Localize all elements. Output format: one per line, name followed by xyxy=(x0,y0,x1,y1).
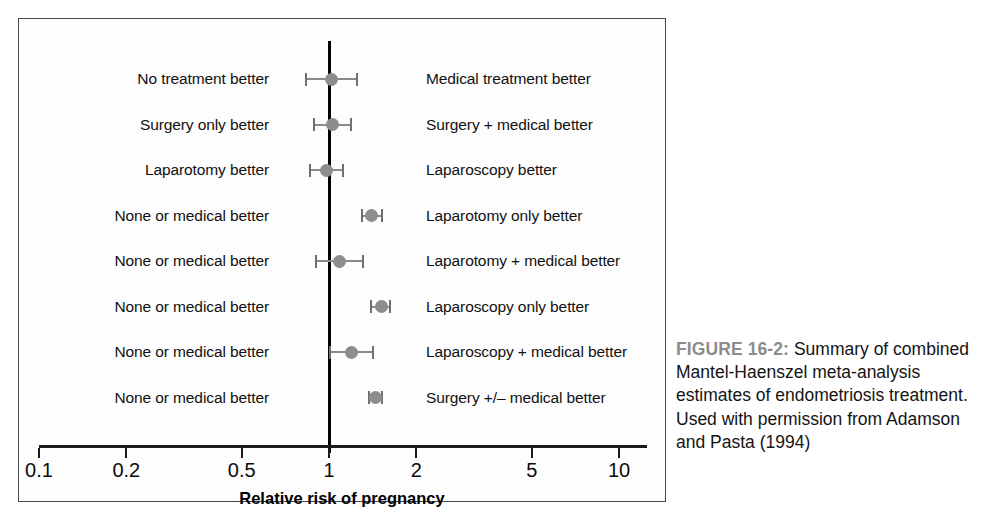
ci-cap-lower xyxy=(309,164,311,177)
point-estimate-marker xyxy=(326,118,339,131)
x-tick xyxy=(618,448,620,458)
forest-row: Laparotomy betterLaparoscopy better xyxy=(19,150,665,190)
row-label-right: Laparoscopy better xyxy=(426,161,557,179)
ci-cap-upper xyxy=(362,255,364,268)
forest-row: Surgery only betterSurgery + medical bet… xyxy=(19,105,665,145)
x-tick-label: 0.5 xyxy=(228,459,256,482)
ci-cap-upper xyxy=(372,346,374,359)
forest-plot-panel: No treatment betterMedical treatment bet… xyxy=(18,18,666,502)
ci-cap-upper xyxy=(342,164,344,177)
x-tick xyxy=(415,448,417,458)
figure-caption-label: FIGURE 16-2: xyxy=(676,339,789,359)
x-axis-line xyxy=(39,445,647,448)
row-label-left: Surgery only better xyxy=(140,116,269,134)
point-estimate-marker xyxy=(375,300,388,313)
ci-cap-upper xyxy=(389,300,391,313)
forest-row: None or medical betterLaparoscopy only b… xyxy=(19,287,665,327)
x-tick-label: 0.1 xyxy=(25,459,53,482)
row-label-left: Laparotomy better xyxy=(145,161,269,179)
forest-row: None or medical betterLaparotomy + medic… xyxy=(19,241,665,281)
figure-caption: FIGURE 16-2: Summary of combined Mantel-… xyxy=(676,338,976,454)
row-label-left: None or medical better xyxy=(114,207,269,225)
row-label-left: None or medical better xyxy=(114,252,269,270)
forest-row: None or medical betterSurgery +/– medica… xyxy=(19,378,665,418)
forest-row: No treatment betterMedical treatment bet… xyxy=(19,59,665,99)
x-tick xyxy=(241,448,243,458)
forest-row: None or medical betterLaparoscopy + medi… xyxy=(19,332,665,372)
ci-cap-upper xyxy=(350,118,352,131)
plot-area: No treatment betterMedical treatment bet… xyxy=(19,19,665,501)
row-label-right: Medical treatment better xyxy=(426,70,591,88)
point-estimate-marker xyxy=(365,209,378,222)
x-tick xyxy=(38,448,40,458)
row-label-left: None or medical better xyxy=(114,343,269,361)
ci-cap-lower xyxy=(329,346,331,359)
ci-cap-lower xyxy=(361,209,363,222)
x-tick xyxy=(125,448,127,458)
row-label-right: Laparoscopy only better xyxy=(426,298,589,316)
x-tick-label: 1 xyxy=(323,459,334,482)
point-estimate-marker xyxy=(325,73,338,86)
x-tick xyxy=(531,448,533,458)
x-tick-label: 0.2 xyxy=(112,459,140,482)
x-tick-label: 2 xyxy=(411,459,422,482)
point-estimate-marker xyxy=(333,255,346,268)
row-label-right: Laparotomy only better xyxy=(426,207,582,225)
x-tick-label: 10 xyxy=(608,459,630,482)
ci-cap-lower xyxy=(370,300,372,313)
row-label-right: Laparotomy + medical better xyxy=(426,252,620,270)
row-label-right: Laparoscopy + medical better xyxy=(426,343,627,361)
x-tick xyxy=(328,448,330,458)
x-axis-title: Relative risk of pregnancy xyxy=(19,489,665,508)
row-label-left: None or medical better xyxy=(114,298,269,316)
row-label-right: Surgery + medical better xyxy=(426,116,593,134)
ci-cap-upper xyxy=(356,73,358,86)
row-label-left: None or medical better xyxy=(114,389,269,407)
row-label-right: Surgery +/– medical better xyxy=(426,389,606,407)
point-estimate-marker xyxy=(345,346,358,359)
point-estimate-marker xyxy=(320,164,333,177)
x-tick-label: 5 xyxy=(526,459,537,482)
forest-row: None or medical betterLaparotomy only be… xyxy=(19,196,665,236)
ci-cap-lower xyxy=(315,255,317,268)
ci-cap-lower xyxy=(305,73,307,86)
ci-cap-upper xyxy=(381,209,383,222)
row-label-left: No treatment better xyxy=(137,70,269,88)
figure-container: No treatment betterMedical treatment bet… xyxy=(0,0,982,520)
ci-cap-lower xyxy=(313,118,315,131)
